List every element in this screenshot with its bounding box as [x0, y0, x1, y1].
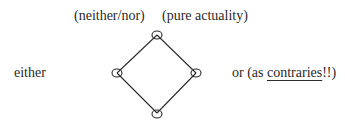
diamond-diagram	[0, 0, 345, 129]
node-bottom-icon	[152, 110, 162, 118]
edge-left-bottom	[117, 73, 157, 113]
edge-top-right	[157, 35, 196, 73]
edge-top-left	[117, 35, 157, 73]
edge-right-bottom	[157, 73, 196, 113]
